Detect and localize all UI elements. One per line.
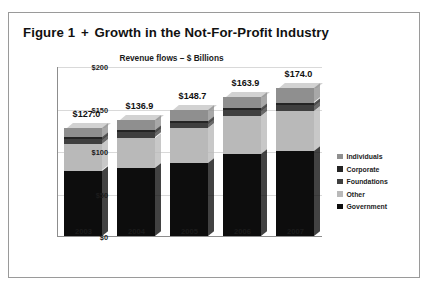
bar-value-label: $174.0 — [271, 69, 327, 79]
bar-segment[interactable] — [276, 111, 314, 151]
bar-segment[interactable] — [223, 154, 261, 236]
stacked-bar[interactable] — [117, 120, 155, 236]
bar-group[interactable] — [217, 67, 270, 236]
x-axis-tick: 2003 — [59, 227, 109, 236]
y-axis-tick: $50 — [76, 190, 108, 199]
bar-segment-side — [155, 163, 161, 236]
bar-segment[interactable] — [117, 120, 155, 130]
bar-segment[interactable] — [170, 163, 208, 236]
stacked-bar[interactable] — [170, 110, 208, 236]
bar-segment-side — [102, 166, 108, 236]
legend-swatch — [337, 154, 343, 160]
bar-segment-side — [208, 124, 214, 163]
legend-swatch — [337, 179, 343, 185]
legend-label: Government — [347, 203, 388, 210]
chart-title: Revenue flows – $ Billions — [19, 53, 324, 63]
bar-segment-side — [314, 106, 320, 151]
bar-segment-side — [208, 158, 214, 236]
bar-value-label: $136.9 — [112, 101, 168, 111]
figure-title-prefix: Figure 1 — [23, 25, 75, 40]
bar-segment[interactable] — [276, 88, 314, 102]
bar-segment[interactable] — [64, 128, 102, 137]
figure-title-main: Growth in the Not-For-Profit Industry — [94, 25, 328, 40]
bar-group[interactable] — [111, 67, 164, 236]
y-axis-tick: $100 — [76, 148, 108, 157]
legend-label: Corporate — [347, 166, 380, 173]
stacked-bar[interactable] — [223, 97, 261, 236]
legend-label: Other — [347, 191, 365, 198]
bar-segment-side — [261, 150, 267, 236]
y-axis-tick: $200 — [76, 63, 108, 72]
bar-value-label: $148.7 — [165, 91, 221, 101]
bar-value-label: $163.9 — [218, 78, 274, 88]
bar-segment[interactable] — [170, 110, 208, 121]
bar-segment[interactable] — [276, 151, 314, 236]
x-axis-tick: 2006 — [218, 227, 268, 236]
legend-label: Foundations — [347, 178, 388, 185]
bar-segment-side — [261, 112, 267, 155]
stacked-bar[interactable] — [64, 128, 102, 236]
figure-title: Figure 1 + Growth in the Not-For-Profit … — [23, 25, 403, 40]
legend-item[interactable]: Government — [337, 203, 413, 210]
stacked-bar[interactable] — [276, 88, 314, 236]
bar-segment[interactable] — [117, 168, 155, 236]
x-axis-tick: 2007 — [271, 227, 321, 236]
legend-label: Individuals — [347, 153, 383, 160]
legend-swatch — [337, 166, 343, 172]
chart-legend: IndividualsCorporateFoundationsOtherGove… — [337, 153, 413, 216]
bar-group[interactable] — [270, 67, 323, 236]
bar-segment[interactable] — [223, 97, 261, 108]
legend-swatch — [337, 191, 343, 197]
bar-value-label: $127.0 — [59, 109, 115, 119]
figure-container: Figure 1 + Growth in the Not-For-Profit … — [8, 12, 420, 278]
bar-segment[interactable] — [117, 138, 155, 169]
plus-icon: + — [79, 25, 91, 40]
legend-item[interactable]: Foundations — [337, 178, 413, 185]
chart: Revenue flows – $ Billions IndividualsCo… — [19, 53, 411, 269]
legend-item[interactable]: Individuals — [337, 153, 413, 160]
x-axis-tick: 2004 — [112, 227, 162, 236]
x-axis-tick: 2005 — [165, 227, 215, 236]
bar-segment-side — [314, 146, 320, 236]
bar-segment[interactable] — [223, 116, 261, 154]
bar-segment[interactable] — [170, 128, 208, 163]
legend-swatch — [337, 204, 343, 210]
legend-item[interactable]: Corporate — [337, 166, 413, 173]
legend-item[interactable]: Other — [337, 191, 413, 198]
